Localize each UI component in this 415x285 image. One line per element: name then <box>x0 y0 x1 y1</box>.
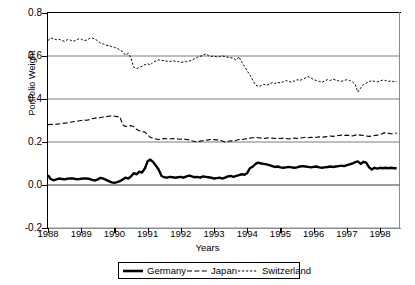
x-tick-mark <box>247 228 248 233</box>
legend-swatch-dashed <box>186 267 208 275</box>
chart-figure: Portfolio Weight 0.80.60.40.20.0-0.2 Yea… <box>0 0 415 285</box>
legend-label: Japan <box>211 265 237 276</box>
y-tick-mark <box>42 56 48 57</box>
legend-item-germany[interactable]: Germany <box>122 265 186 276</box>
series-line-germany <box>48 160 397 183</box>
x-tick-mark <box>148 228 149 233</box>
legend-item-switzerland[interactable]: Switzerland <box>237 265 311 276</box>
legend-swatch-solid <box>122 267 144 275</box>
y-tick-label: 0.6 <box>8 51 42 61</box>
legend-item-japan[interactable]: Japan <box>186 265 237 276</box>
series-line-japan <box>48 116 397 142</box>
x-tick-mark <box>48 228 49 233</box>
x-tick-mark <box>280 228 281 233</box>
legend-swatch-dotted <box>237 267 259 275</box>
plot-area <box>48 13 400 228</box>
x-axis-title: Years <box>0 242 415 253</box>
y-tick-mark <box>42 13 48 14</box>
y-axis-tick-labels: 0.80.60.40.20.0-0.2 <box>2 0 42 236</box>
legend-label: Switzerland <box>262 265 311 276</box>
y-tick-label: 0.2 <box>8 137 42 147</box>
x-tick-mark <box>380 228 381 233</box>
y-tick-label: 0.8 <box>8 8 42 18</box>
chart-legend: GermanyJapanSwitzerland <box>118 262 300 279</box>
x-tick-mark <box>347 228 348 233</box>
y-tick-mark <box>42 142 48 143</box>
y-tick-label: 0.4 <box>8 94 42 104</box>
legend-label: Germany <box>147 265 186 276</box>
y-tick-label: 0.0 <box>8 180 42 190</box>
series-line-switzerland <box>48 38 397 92</box>
x-tick-mark <box>214 228 215 233</box>
y-tick-mark <box>42 185 48 186</box>
x-tick-mark <box>314 228 315 233</box>
y-tick-mark <box>42 99 48 100</box>
x-tick-mark <box>114 228 115 233</box>
x-tick-mark <box>81 228 82 233</box>
x-tick-mark <box>181 228 182 233</box>
